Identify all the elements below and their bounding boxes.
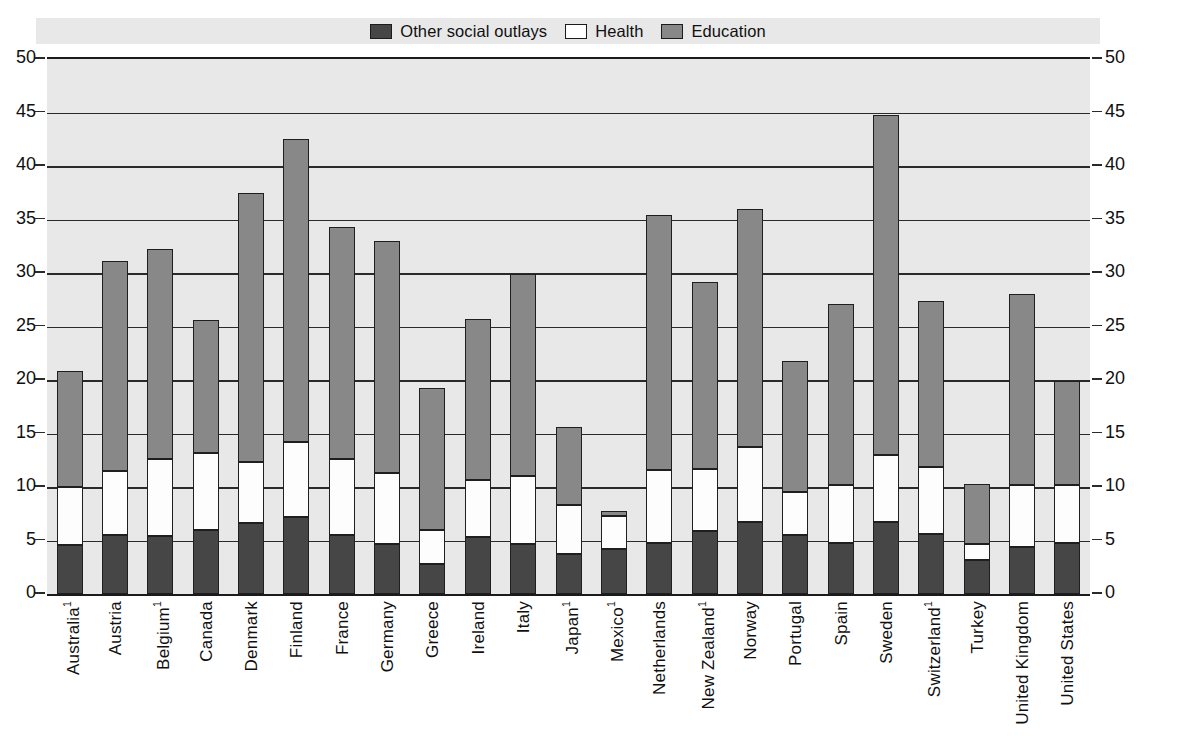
bar-segment-health [737, 447, 763, 522]
y-axis-tick-left: 40 [0, 154, 36, 175]
bar-segment-other [102, 535, 128, 594]
tick-mark-right [1092, 218, 1102, 220]
gridline [47, 166, 1090, 168]
tick-mark-right [1092, 111, 1102, 113]
tick-mark-right [1092, 432, 1102, 434]
bar-ireland [465, 319, 491, 594]
bar-sweden [873, 115, 899, 594]
bar-norway [737, 209, 763, 594]
y-axis-tick-left: 20 [0, 368, 36, 389]
tick-mark-left [35, 218, 45, 220]
bar-segment-health [465, 480, 491, 538]
bar-segment-education [1054, 381, 1080, 485]
bar-australia [57, 371, 83, 594]
bar-segment-other [646, 543, 672, 594]
bar-segment-health [873, 455, 899, 522]
x-axis-label-canada: Canada [197, 601, 217, 662]
x-axis-label-portugal: Portugal [786, 601, 806, 666]
bar-segment-health [193, 453, 219, 530]
bar-segment-other [419, 564, 445, 594]
bar-united-states [1054, 381, 1080, 594]
bar-segment-other [238, 523, 264, 594]
bar-segment-health [601, 516, 627, 549]
bar-segment-education [964, 484, 990, 544]
bar-segment-health [964, 544, 990, 560]
bar-united-kingdom [1009, 294, 1035, 594]
bar-spain [828, 304, 854, 594]
x-axis-label-new-zealand: New Zealand1 [696, 601, 719, 709]
bar-segment-health [419, 530, 445, 564]
bar-segment-health [782, 492, 808, 535]
bar-segment-health [510, 476, 536, 543]
tick-mark-left [35, 592, 45, 594]
bar-segment-other [510, 544, 536, 594]
plot-area [47, 57, 1090, 596]
y-axis-tick-right: 10 [1105, 475, 1165, 496]
bar-segment-health [692, 469, 718, 531]
bar-segment-education [692, 282, 718, 469]
x-axis-label-spain: Spain [832, 601, 852, 645]
bar-segment-health [374, 473, 400, 544]
bar-segment-health [1054, 485, 1080, 543]
x-axis-label-united-states: United States [1058, 601, 1078, 706]
x-axis-label-greece: Greece [423, 601, 443, 658]
bar-segment-health [646, 470, 672, 543]
bar-france [329, 227, 355, 594]
tick-mark-left [35, 111, 45, 113]
bar-segment-health [102, 471, 128, 535]
x-axis-label-italy: Italy [514, 601, 534, 633]
bar-segment-education [782, 361, 808, 493]
x-axis-label-mexico: Mexico1 [605, 601, 628, 662]
bar-segment-education [329, 227, 355, 459]
bar-germany [374, 241, 400, 594]
bar-segment-education [57, 371, 83, 487]
x-axis-label-sweden: Sweden [877, 601, 897, 664]
bar-segment-health [329, 459, 355, 535]
x-axis-label-denmark: Denmark [242, 601, 262, 671]
bar-new-zealand [692, 282, 718, 594]
y-axis-tick-right: 50 [1105, 47, 1165, 68]
y-axis-tick-right: 30 [1105, 261, 1165, 282]
bar-finland [283, 139, 309, 594]
bar-canada [193, 320, 219, 594]
x-axis-label-united-kingdom: United Kingdom [1013, 601, 1033, 725]
bar-segment-education [737, 209, 763, 448]
x-axis-label-ireland: Ireland [469, 601, 489, 654]
bar-belgium [147, 249, 173, 594]
x-axis-label-japan: Japan1 [560, 601, 583, 654]
x-axis-label-austria: Austria [106, 601, 126, 655]
bar-segment-education [1009, 294, 1035, 484]
bar-mexico [601, 511, 627, 594]
bar-segment-health [828, 485, 854, 543]
bar-segment-education [918, 301, 944, 467]
tick-mark-left [35, 539, 45, 541]
x-axis-label-norway: Norway [741, 601, 761, 660]
x-axis-label-switzerland: Switzerland1 [922, 601, 945, 697]
bar-segment-other [873, 522, 899, 594]
bar-segment-health [918, 467, 944, 534]
x-axis-label-finland: Finland [287, 601, 307, 658]
gridline [47, 113, 1090, 115]
gridline [47, 273, 1090, 275]
bar-italy [510, 274, 536, 594]
x-axis-label-netherlands: Netherlands [650, 601, 670, 695]
bar-segment-other [329, 535, 355, 594]
y-axis-tick-right: 20 [1105, 368, 1165, 389]
bar-segment-other [57, 545, 83, 594]
y-axis-tick-right: 45 [1105, 100, 1165, 121]
y-axis-tick-right: 0 [1105, 582, 1165, 603]
y-axis-tick-right: 5 [1105, 528, 1165, 549]
bar-denmark [238, 193, 264, 594]
bar-segment-education [419, 388, 445, 530]
bar-segment-other [737, 522, 763, 594]
bar-segment-health [238, 462, 264, 523]
bar-segment-other [782, 535, 808, 594]
bar-segment-education [510, 274, 536, 476]
y-axis-tick-left: 5 [0, 528, 36, 549]
bar-segment-other [193, 530, 219, 594]
gridline [47, 220, 1090, 222]
bar-segment-education [238, 193, 264, 463]
bar-segment-health [147, 459, 173, 536]
tick-mark-right [1092, 539, 1102, 541]
y-axis-tick-left: 10 [0, 475, 36, 496]
